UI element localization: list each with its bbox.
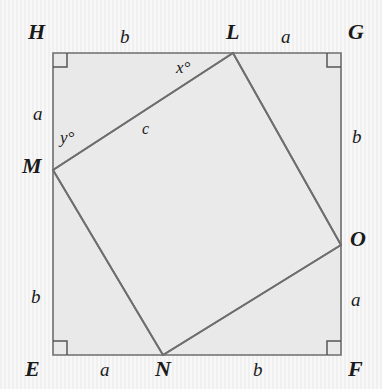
- vertex-label-L: L: [226, 21, 240, 43]
- vertex-label-F: F: [348, 358, 363, 380]
- side-label-top-HL: b: [120, 27, 130, 46]
- vertex-label-G: G: [348, 21, 364, 43]
- side-label-top-LG: a: [281, 27, 291, 46]
- vertex-label-O: O: [350, 228, 366, 250]
- geometry-figure: H G E F L M N O b a a b b a a b x° y° c: [0, 0, 382, 389]
- side-label-right-GO: b: [352, 127, 362, 146]
- diagram-canvas: [0, 0, 382, 389]
- side-label-bottom-NF: b: [253, 360, 263, 379]
- angle-label-y: y°: [60, 129, 74, 146]
- side-label-bottom-EN: a: [100, 360, 110, 379]
- angle-label-x: x°: [176, 59, 190, 76]
- side-label-left-ME: b: [31, 287, 41, 306]
- vertex-label-H: H: [28, 21, 46, 43]
- vertex-label-E: E: [25, 358, 40, 380]
- vertex-label-N: N: [155, 358, 171, 380]
- side-label-left-HM: a: [33, 104, 43, 123]
- side-label-right-OF: a: [351, 290, 361, 309]
- segment-label-c: c: [142, 121, 149, 137]
- vertex-label-M: M: [22, 155, 42, 177]
